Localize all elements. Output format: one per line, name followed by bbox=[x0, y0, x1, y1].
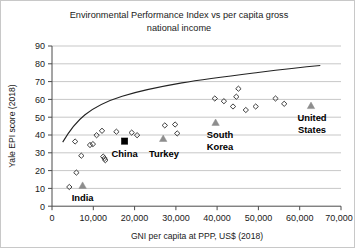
data-point bbox=[212, 96, 217, 101]
x-tick-label: 60,000 bbox=[286, 213, 314, 223]
label-united-states-line1: United bbox=[297, 112, 326, 123]
y-axis-tick-labels: 90 80 70 60 50 40 30 20 10 0 bbox=[35, 41, 45, 211]
data-point bbox=[230, 104, 235, 109]
label-india: India bbox=[72, 192, 95, 203]
label-united-states-line2: States bbox=[298, 124, 326, 135]
data-point bbox=[273, 96, 278, 101]
chart-title-line2: national income bbox=[147, 23, 211, 33]
x-axis-title: GNI per capita at PPP, US$ (2018) bbox=[131, 231, 263, 241]
label-turkey: Turkey bbox=[149, 148, 180, 159]
chart-title-line1: Environmental Performance Index vs per c… bbox=[70, 10, 289, 20]
data-point bbox=[72, 139, 77, 144]
data-point bbox=[79, 153, 84, 158]
y-tick-label: 0 bbox=[40, 202, 45, 212]
data-point bbox=[162, 123, 167, 128]
data-point bbox=[234, 94, 239, 99]
epi-gni-scatter-chart: Environmental Performance Index vs per c… bbox=[1, 1, 355, 248]
y-tick-label: 80 bbox=[35, 59, 45, 69]
x-tick-label: 30,000 bbox=[162, 213, 190, 223]
x-tick-label: 20,000 bbox=[121, 213, 149, 223]
y-tick-label: 90 bbox=[35, 41, 45, 51]
data-point-south-korea bbox=[212, 119, 219, 125]
x-axis-ticks bbox=[52, 206, 341, 210]
data-point bbox=[129, 130, 134, 135]
data-point bbox=[87, 142, 92, 147]
y-tick-label: 50 bbox=[35, 113, 45, 123]
y-tick-label: 60 bbox=[35, 95, 45, 105]
y-axis-ticks bbox=[48, 46, 52, 206]
y-tick-label: 70 bbox=[35, 77, 45, 87]
data-point-china bbox=[122, 138, 128, 144]
x-tick-label: 50,000 bbox=[245, 213, 273, 223]
label-south-korea-line2: Korea bbox=[207, 141, 234, 152]
data-point bbox=[236, 86, 241, 91]
data-point bbox=[243, 107, 248, 112]
label-china: China bbox=[112, 148, 139, 159]
data-point bbox=[90, 142, 95, 147]
x-tick-label: 70,000 bbox=[325, 213, 353, 223]
y-axis-title: Yale EPI score (2018) bbox=[7, 84, 17, 168]
data-point-united-states bbox=[307, 102, 314, 109]
data-point bbox=[253, 104, 258, 109]
data-point-india bbox=[79, 182, 86, 189]
data-point-turkey bbox=[160, 135, 167, 142]
y-tick-label: 20 bbox=[35, 166, 45, 176]
x-tick-label: 10,000 bbox=[80, 213, 108, 223]
data-point bbox=[99, 128, 104, 133]
data-point bbox=[172, 122, 177, 127]
y-tick-label: 10 bbox=[35, 184, 45, 194]
data-point bbox=[114, 129, 119, 134]
scatter-points-open bbox=[67, 86, 287, 190]
y-tick-label: 40 bbox=[35, 130, 45, 140]
x-tick-label: 40,000 bbox=[203, 213, 231, 223]
y-tick-label: 30 bbox=[35, 148, 45, 158]
data-point bbox=[282, 101, 287, 106]
x-axis-tick-labels: 0 10,000 20,000 30,000 40,000 50,000 60,… bbox=[49, 213, 352, 223]
chart-container: Environmental Performance Index vs per c… bbox=[0, 0, 355, 248]
x-tick-label: 0 bbox=[49, 213, 54, 223]
data-point bbox=[67, 184, 72, 189]
label-south-korea-line1: South bbox=[207, 129, 234, 140]
